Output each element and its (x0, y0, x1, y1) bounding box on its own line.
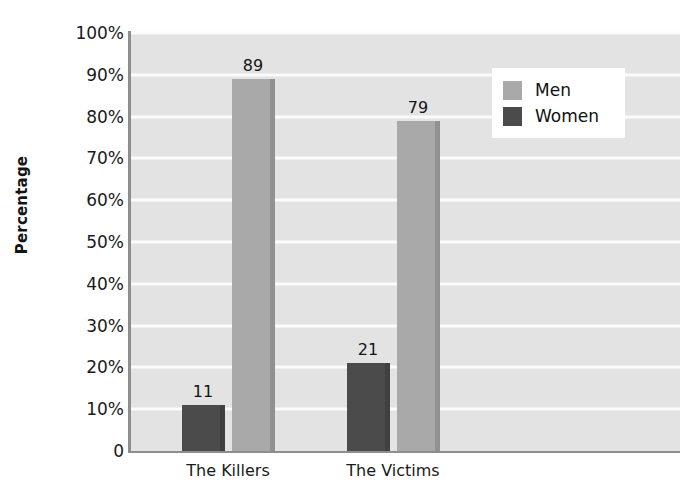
y-axis-tick-50: 50% (40, 234, 124, 251)
chart-legend: MenWomen (492, 68, 625, 138)
y-axis-tick-labels: 100%90%80%70%60%50%40%30%20%10%0 (40, 33, 124, 451)
x-axis-line (128, 451, 680, 453)
y-axis-tick-90: 90% (40, 66, 124, 83)
y-axis-tick-30: 30% (40, 317, 124, 334)
y-axis-title: Percentage (13, 145, 31, 265)
bar-value-label: 11 (172, 384, 235, 400)
bar-men-the-killers (232, 79, 275, 451)
y-axis-tick-80: 80% (40, 108, 124, 125)
bar-value-label: 21 (337, 342, 400, 358)
y-axis-line (128, 31, 131, 453)
gridline-100 (131, 32, 680, 35)
bar-shading (385, 363, 390, 451)
y-axis-tick-100: 100% (40, 25, 124, 42)
bar-chart: Percentage 100%90%80%70%60%50%40%30%20%1… (0, 0, 698, 504)
bar-value-label: 89 (222, 58, 285, 74)
y-axis-tick-60: 60% (40, 192, 124, 209)
y-axis-tick-10: 10% (40, 401, 124, 418)
bar-shading (270, 79, 275, 451)
legend-item-label: Men (535, 82, 571, 99)
bar-shading (220, 405, 225, 451)
legend-item-women[interactable]: Women (503, 103, 599, 129)
legend-swatch-icon (503, 81, 522, 100)
legend-item-men[interactable]: Men (503, 77, 599, 103)
y-axis-tick-40: 40% (40, 275, 124, 292)
bar-women-the-victims (347, 363, 390, 451)
y-axis-tick-0: 0 (40, 443, 124, 460)
x-category-label-1: The Victims (303, 461, 483, 480)
bar-shading (435, 121, 440, 451)
bar-women-the-killers (182, 405, 225, 451)
x-category-label-0: The Killers (138, 461, 318, 480)
y-axis-tick-20: 20% (40, 359, 124, 376)
legend-swatch-icon (503, 107, 522, 126)
bar-men-the-victims (397, 121, 440, 451)
y-axis-tick-70: 70% (40, 150, 124, 167)
legend-item-label: Women (535, 108, 599, 125)
bar-value-label: 79 (387, 100, 450, 116)
